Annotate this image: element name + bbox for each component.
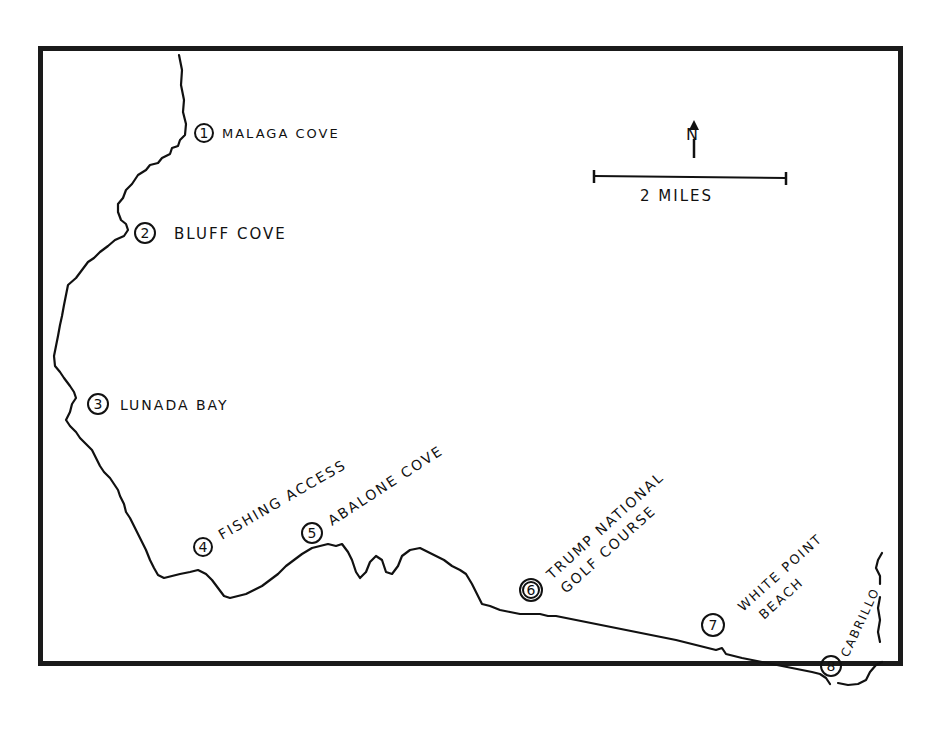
scale-bar — [594, 170, 786, 185]
location-label-line1[interactable]: TRUMP NATIONAL — [543, 469, 667, 583]
marker-number: 5 — [308, 525, 317, 541]
location-marker-2[interactable]: 2 — [135, 223, 155, 243]
marker-number: 3 — [94, 396, 103, 412]
marker-number: 4 — [199, 539, 208, 555]
location-label[interactable]: ABALONE COVE — [325, 442, 446, 528]
location-marker-1[interactable]: 1 — [195, 124, 213, 142]
location-label[interactable]: MALAGA COVE — [222, 126, 340, 141]
marker-number: 7 — [709, 617, 718, 633]
marker-number: 8 — [827, 658, 836, 674]
location-marker-6[interactable]: 6 — [520, 579, 542, 601]
marker-number: 2 — [141, 225, 150, 241]
scale-label: 2 MILES — [640, 187, 713, 205]
location-label[interactable]: FISHING ACCESS — [216, 456, 350, 542]
coastline-fragment — [878, 597, 880, 642]
location-label[interactable]: CABRILLO — [838, 585, 882, 659]
coastline — [54, 55, 830, 684]
location-label[interactable]: BLUFF COVE — [174, 225, 287, 243]
coastline-map: N 2 MILES 1 MALAGA COVE 2 BLUFF COVE 3 L… — [0, 0, 938, 737]
location-marker-7[interactable]: 7 — [702, 614, 724, 636]
marker-number: 6 — [527, 582, 536, 598]
marker-number: 1 — [200, 125, 209, 141]
location-marker-8[interactable]: 8 — [821, 656, 841, 676]
location-label[interactable]: LUNADA BAY — [120, 397, 229, 413]
location-marker-5[interactable]: 5 — [302, 523, 322, 543]
coastline-fragment — [876, 553, 882, 584]
location-marker-4[interactable]: 4 — [194, 538, 212, 556]
location-marker-3[interactable]: 3 — [88, 394, 108, 414]
coastline-fragment — [838, 662, 882, 685]
